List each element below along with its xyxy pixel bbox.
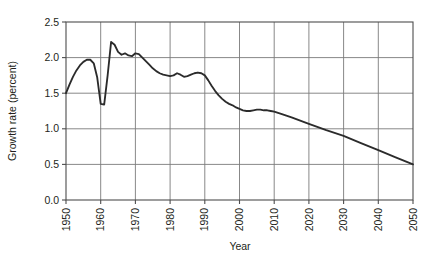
y-tick-label: 1.0 — [44, 122, 59, 134]
x-tick-label: 1970 — [129, 208, 141, 232]
y-tick-label: 0.0 — [44, 194, 59, 206]
x-tick-label: 2040 — [372, 208, 384, 232]
x-tick-label: 1980 — [164, 208, 176, 232]
x-axis-tick-labels: 1950196019701980199020002010202020302040… — [60, 208, 419, 232]
y-axis-tick-labels: 0.00.51.01.52.02.5 — [44, 16, 59, 206]
x-tick-label: 2010 — [268, 208, 280, 232]
y-axis-ticks — [62, 22, 66, 200]
x-tick-label: 2050 — [407, 208, 419, 232]
x-tick-label: 2020 — [303, 208, 315, 232]
y-tick-label: 0.5 — [44, 158, 59, 170]
y-tick-label: 2.5 — [44, 16, 59, 28]
x-tick-label: 1950 — [60, 208, 72, 232]
x-gridlines — [101, 22, 379, 200]
x-tick-label: 1960 — [94, 208, 106, 232]
x-tick-label: 1990 — [198, 208, 210, 232]
y-tick-label: 2.0 — [44, 51, 59, 63]
y-axis-title: Growth rate (percent) — [6, 61, 18, 161]
y-tick-label: 1.5 — [44, 87, 59, 99]
x-tick-label: 2030 — [337, 208, 349, 232]
x-tick-label: 2000 — [233, 208, 245, 232]
chart-canvas: 0.00.51.01.52.02.5 195019601970198019902… — [0, 0, 435, 267]
x-axis-ticks — [66, 200, 413, 204]
growth-rate-chart-figure: 0.00.51.01.52.02.5 195019601970198019902… — [0, 0, 435, 267]
x-axis-title: Year — [229, 240, 251, 252]
